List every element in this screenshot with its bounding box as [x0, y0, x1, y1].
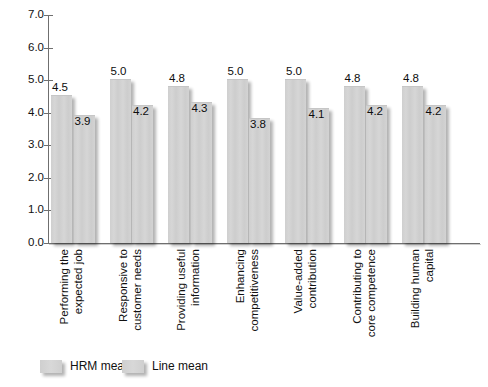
- bar-line-mean: [132, 105, 153, 243]
- y-axis-tick-label: 4.0: [4, 107, 44, 119]
- bar-hrm-mean: [344, 86, 365, 243]
- y-axis-tick-label: 1.0: [4, 204, 44, 216]
- bar-line-mean: [249, 118, 270, 243]
- bar-value-label: 5.0: [228, 65, 244, 77]
- bar-value-label: 4.8: [169, 72, 185, 84]
- category-label: Building humancapital: [409, 249, 423, 349]
- line-mean-swatch: [122, 360, 144, 373]
- category-label: Contributing tocore competence: [351, 249, 365, 349]
- bar-hrm-mean: [110, 79, 131, 243]
- hrm-mean-swatch: [40, 360, 62, 373]
- category-label-line1: Building human: [409, 249, 422, 349]
- category-label-line1: Responsive to: [117, 249, 130, 349]
- category-label: Value-addedcontribution: [292, 249, 306, 349]
- category-label-line2: core competence: [365, 249, 378, 349]
- bar-line-mean: [308, 108, 329, 243]
- bar-chart: 7.06.05.04.03.02.01.00.0 4.53.95.04.24.8…: [0, 0, 488, 387]
- bar-hrm-mean: [402, 86, 423, 243]
- bar-line-mean: [74, 115, 95, 243]
- y-axis-tick-label: 3.0: [4, 139, 44, 151]
- y-axis-tick-label: 0.0: [4, 237, 44, 249]
- bar-value-label: 4.2: [133, 105, 149, 117]
- bar-value-label: 4.2: [426, 105, 442, 117]
- bar-value-label: 4.5: [52, 81, 68, 93]
- category-label-line2: information: [189, 249, 202, 349]
- y-axis-tick-label: 6.0: [4, 42, 44, 54]
- bar-hrm-mean: [227, 79, 248, 243]
- category-label-line2: expected job: [72, 249, 85, 349]
- bar-value-label: 3.9: [75, 115, 91, 127]
- y-axis-tick-label: 7.0: [4, 9, 44, 21]
- category-label-line2: contribution: [306, 249, 319, 349]
- legend-label: Line mean: [152, 359, 208, 374]
- category-label-line1: Providing useful: [175, 249, 188, 349]
- category-label: Responsive tocustomer needs: [117, 249, 131, 349]
- y-axis-tick-label: 2.0: [4, 172, 44, 184]
- bar-value-label: 4.3: [192, 102, 208, 114]
- bar-line-mean: [366, 105, 387, 243]
- category-label-line1: Performing the: [58, 249, 71, 349]
- bar-value-label: 4.1: [309, 108, 325, 120]
- category-label: Performing theexpected job: [58, 249, 72, 349]
- x-axis-line: [48, 243, 480, 244]
- category-label-line2: customer needs: [131, 249, 144, 349]
- bar-hrm-mean: [285, 79, 306, 243]
- category-label-line1: Value-added: [292, 249, 305, 349]
- category-label-line2: competitiveness: [248, 249, 261, 349]
- category-label-line1: Contributing to: [351, 249, 364, 349]
- y-axis-tick-label: 5.0: [4, 74, 44, 86]
- bar-line-mean: [425, 105, 446, 243]
- category-label-line2: capital: [423, 249, 436, 349]
- category-label-line1: Enhancing: [234, 249, 247, 349]
- bar-hrm-mean: [51, 95, 72, 243]
- bar-hrm-mean: [168, 86, 189, 243]
- bar-value-label: 3.8: [250, 118, 266, 130]
- bar-line-mean: [191, 102, 212, 243]
- bar-value-label: 4.8: [403, 72, 419, 84]
- bar-value-label: 4.2: [367, 105, 383, 117]
- plot-area: 4.53.95.04.24.84.35.03.85.04.14.84.24.84…: [48, 15, 480, 243]
- bar-value-label: 5.0: [286, 65, 302, 77]
- category-label: Enhancingcompetitiveness: [234, 249, 248, 349]
- bar-value-label: 4.8: [345, 72, 361, 84]
- category-label: Providing usefulinformation: [175, 249, 189, 349]
- bar-value-label: 5.0: [111, 65, 127, 77]
